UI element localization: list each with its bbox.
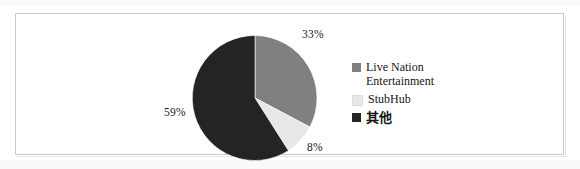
legend-label-stubhub: StubHub	[368, 92, 411, 106]
pie-label-live-nation: 33%	[302, 28, 324, 40]
chart-frame: 33% 8% 59% Live Nation Entertainment Stu…	[15, 13, 564, 155]
scan-noise-top	[0, 0, 580, 6]
legend-label-live-nation: Live Nation Entertainment	[366, 60, 434, 88]
pie-chart	[192, 35, 318, 161]
pie-label-stubhub: 8%	[307, 141, 323, 153]
legend-swatch-live-nation	[352, 63, 361, 72]
legend-swatch-other	[352, 113, 361, 122]
scan-noise-bottom	[0, 160, 580, 169]
legend-item-stubhub: StubHub	[352, 92, 552, 106]
legend-label-other: 其他	[366, 110, 392, 125]
pie-svg	[192, 35, 318, 161]
legend-item-other: 其他	[352, 110, 552, 125]
pie-label-other: 59%	[164, 106, 186, 118]
legend-swatch-stubhub	[352, 95, 363, 106]
legend: Live Nation Entertainment StubHub 其他	[352, 60, 552, 129]
legend-item-live-nation: Live Nation Entertainment	[352, 60, 552, 88]
chart-image: 33% 8% 59% Live Nation Entertainment Stu…	[0, 0, 580, 169]
